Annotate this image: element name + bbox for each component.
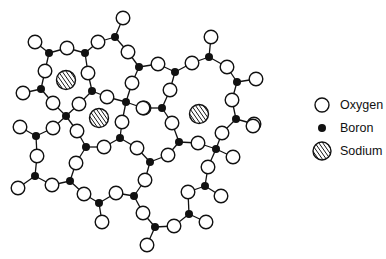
oxygen-atom	[201, 160, 215, 174]
oxygen-atom	[95, 215, 109, 229]
boron-atom	[95, 199, 103, 207]
oxygen-atom	[77, 187, 91, 201]
oxygen-atom	[46, 96, 60, 110]
oxygen-atom	[109, 186, 123, 200]
boron-atom	[212, 145, 220, 153]
boron-atom	[201, 182, 209, 190]
oxygen-atom	[140, 238, 154, 252]
oxygen-atom	[16, 86, 30, 100]
boron-atom	[88, 87, 96, 95]
legend-label: Boron	[340, 121, 373, 135]
boron-atom	[135, 63, 143, 71]
oxygen-atom	[60, 41, 74, 55]
oxygen-atom	[46, 121, 60, 135]
oxygen-atom	[70, 124, 84, 138]
oxygen-atom	[125, 76, 139, 90]
oxygen-atom	[249, 72, 263, 86]
boron-atom	[233, 78, 241, 86]
oxygen-atom	[215, 126, 229, 140]
boron-filled-dot-icon	[300, 116, 344, 139]
oxygen-atom	[225, 93, 239, 107]
boron-atom	[205, 53, 213, 61]
oxygen-atom	[116, 11, 130, 25]
oxygen-atoms	[11, 11, 263, 252]
sodium-atom	[90, 109, 109, 128]
boron-atom	[232, 115, 240, 123]
oxygen-atom	[138, 173, 152, 187]
oxygen-atom	[91, 35, 105, 49]
oxygen-atom	[185, 56, 199, 70]
oxygen-atom	[220, 60, 234, 74]
legend-label: Sodium	[340, 144, 382, 158]
oxygen-atom	[100, 90, 114, 104]
boron-atom	[130, 192, 138, 200]
oxygen-atom	[165, 116, 179, 130]
boron-atom	[146, 158, 154, 166]
boron-atom	[31, 172, 39, 180]
oxygen-atom	[163, 83, 177, 97]
legend-item-boron: Boron	[300, 116, 386, 139]
boron-atom	[185, 210, 193, 218]
oxygen-atom	[13, 120, 27, 134]
sodium-hatched-circle-icon	[300, 139, 344, 162]
boron-atom	[175, 138, 183, 146]
boron-atom	[151, 223, 159, 231]
oxygen-atom	[97, 140, 111, 154]
oxygen-atom	[121, 45, 135, 59]
oxygen-atom	[81, 66, 95, 80]
oxygen-atom	[11, 181, 25, 195]
boron-atom	[81, 49, 89, 57]
boron-atom	[122, 98, 130, 106]
oxygen-atom	[191, 136, 205, 150]
legend-label: Oxygen	[340, 98, 383, 112]
boron-atom	[45, 49, 53, 57]
boron-atom	[62, 112, 70, 120]
oxygen-atom	[69, 156, 83, 170]
boron-atom	[66, 177, 74, 185]
oxygen-atom	[181, 185, 195, 199]
boron-atom	[158, 104, 166, 112]
oxygen-atom	[204, 30, 218, 44]
boron-atom	[82, 143, 90, 151]
oxygen-atom	[167, 219, 181, 233]
oxygen-atom	[199, 215, 213, 229]
oxygen-atom	[38, 64, 52, 78]
oxygen-atom	[72, 97, 86, 111]
boron-atom	[116, 134, 124, 142]
sodium-atom	[57, 71, 76, 90]
sodium-atom	[190, 105, 209, 124]
oxygen-atom	[136, 101, 150, 115]
boron-atom	[171, 68, 179, 76]
oxygen-atom	[226, 150, 240, 164]
legend-item-oxygen: Oxygen	[300, 93, 386, 116]
boron-atom	[32, 132, 40, 140]
oxygen-atom	[151, 57, 165, 71]
oxygen-atom	[214, 189, 228, 203]
legend-item-sodium: Sodium	[300, 139, 386, 162]
boron-atom	[37, 85, 45, 93]
oxygen-atom	[136, 206, 150, 220]
oxygen-atom	[246, 119, 260, 133]
oxygen-atom	[28, 35, 42, 49]
legend: Oxygen Boron Sodium	[300, 93, 386, 162]
oxygen-atom	[130, 141, 144, 155]
oxygen-atom	[30, 149, 44, 163]
oxygen-atom	[115, 115, 129, 129]
borate-glass-network-diagram	[0, 0, 300, 259]
oxygen-open-circle-icon	[300, 93, 344, 116]
oxygen-atom	[45, 178, 59, 192]
oxygen-atom	[161, 148, 175, 162]
boron-atom	[111, 33, 119, 41]
